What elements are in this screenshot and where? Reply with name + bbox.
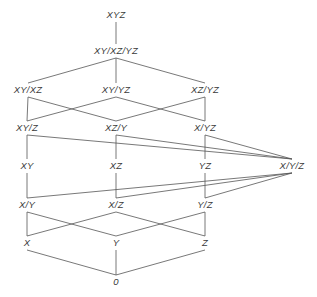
lattice-edge [27,173,292,198]
lattice-node-x-y: X/Y [19,200,35,210]
lattice-node-y-z: Y/Z [197,200,212,210]
lattice-node-x-y-z: X/Y/Z [280,161,305,171]
lattice-edge [27,135,292,159]
lattice-node-z: Z [202,238,208,248]
lattice-node-y: Y [113,238,120,248]
lattice-node-xyz: XYZ [106,10,125,20]
lattice-node-xy-z: XY/Z [16,123,38,133]
lattice-node-xy-yz: XY/YZ [102,85,130,95]
lattice-node-xy-xz: XY/XZ [14,85,42,95]
lattice-node-xz: XZ [110,161,123,171]
lattice-edge [27,97,28,121]
lattice-node-xz-yz: XZ/YZ [191,85,219,95]
lattice-edge [116,250,205,275]
lattice-node-x: X [24,238,31,248]
edge-layer [0,0,317,297]
lattice-node-x-yz: X/YZ [194,123,216,133]
lattice-node-xy-xz-yz: XY/XZ/YZ [94,46,138,56]
lattice-edge [116,173,292,198]
lattice-node-yz: YZ [199,161,212,171]
lattice-node-xy: XY [20,161,33,171]
lattice-edge [28,58,116,83]
lattice-edge [116,58,205,83]
lattice-edge [116,135,292,159]
lattice-node-xz-y: XZ/Y [105,123,127,133]
lattice-edge [27,250,116,275]
lattice-diagram: XYZXY/XZ/YZXY/XZXY/YZXZ/YZXY/ZXZ/YX/YZXY… [0,0,317,297]
lattice-node-x-z: X/Z [108,200,123,210]
lattice-node-zero: 0 [113,277,118,287]
